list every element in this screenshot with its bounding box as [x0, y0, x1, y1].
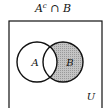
venn-diagram: Ac ∩ B A B U	[0, 0, 107, 108]
shaded-region	[17, 40, 90, 90]
label-a: A	[30, 57, 38, 68]
label-b: B	[65, 57, 73, 68]
title-expression: Ac ∩ B	[34, 2, 71, 15]
label-universe: U	[87, 91, 96, 102]
